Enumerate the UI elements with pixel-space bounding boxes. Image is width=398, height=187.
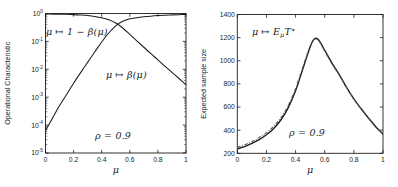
x-tick-label: 0.8 xyxy=(153,156,163,163)
y-tick-label: 1000 xyxy=(220,57,235,64)
x-tick-label: 1 xyxy=(184,156,188,163)
y-tick-label: 10-3 xyxy=(31,92,43,100)
curve-label-power: μ ↦ 1 − β(μ) xyxy=(46,27,108,37)
x-axis-label: μ xyxy=(307,164,313,175)
y-tick-label: 10-4 xyxy=(31,120,43,128)
x-tick-label: 0.6 xyxy=(125,156,135,163)
y-tick-label: 10-1 xyxy=(31,37,43,45)
rho-annotation-right: ρ = 0.9 xyxy=(289,128,325,138)
y-tick-label: 1400 xyxy=(220,11,235,18)
y-tick-label: 100 xyxy=(33,9,44,17)
curve-label-beta: μ ↦ β(μ) xyxy=(106,70,147,80)
x-tick-label: 0 xyxy=(235,156,239,163)
x-tick-label: 0.8 xyxy=(349,156,359,163)
y-tick-label: 800 xyxy=(223,80,235,87)
y-tick-label: 400 xyxy=(223,127,235,134)
x-tick-label: 0.4 xyxy=(97,156,107,163)
y-tick-label: 1200 xyxy=(220,34,235,41)
y-axis-label: Expected sample size xyxy=(200,49,209,119)
y-tick-label: 10-2 xyxy=(31,65,43,73)
figure-container: 00.20.40.60.8110010-110-210-310-410-5μOp… xyxy=(0,0,398,187)
y-tick-label: 10-5 xyxy=(31,148,43,156)
curve-label-expected-sample-size: μ ↦ EμT∗ xyxy=(252,27,296,37)
x-tick-label: 1 xyxy=(381,156,385,163)
y-tick-label: 200 xyxy=(223,150,235,157)
x-tick-label: 0.2 xyxy=(69,156,79,163)
x-tick-label: 0 xyxy=(44,156,48,163)
y-axis-label: Operational Characteristic xyxy=(3,41,12,124)
x-axis-label: μ xyxy=(113,164,119,175)
x-tick-label: 0.2 xyxy=(262,156,272,163)
y-tick-label: 600 xyxy=(223,103,235,110)
rho-annotation-left: ρ = 0.9 xyxy=(95,131,131,141)
x-tick-label: 0.6 xyxy=(320,156,330,163)
x-tick-label: 0.4 xyxy=(291,156,301,163)
